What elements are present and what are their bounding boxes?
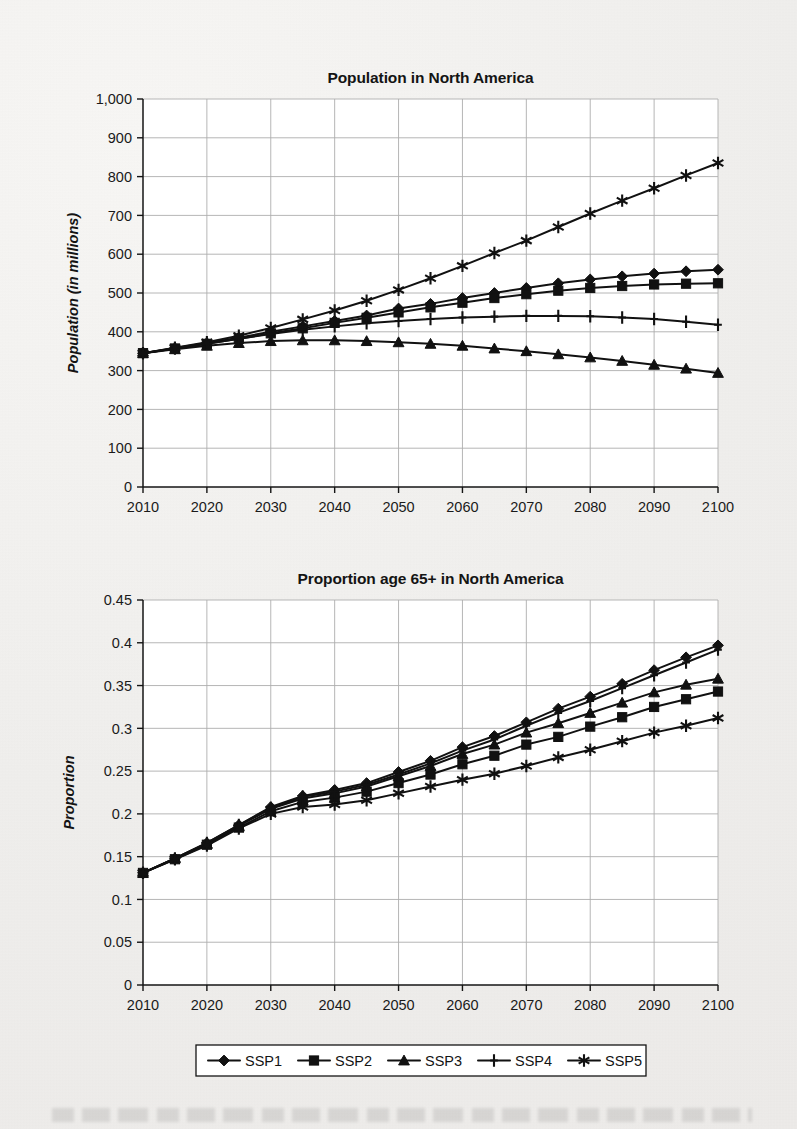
- x-tick-label: 2060: [446, 997, 478, 1013]
- legend-label: SSP3: [425, 1053, 462, 1069]
- marker-square: [681, 695, 690, 704]
- marker-square: [650, 702, 659, 711]
- y-tick-label: 300: [108, 363, 132, 379]
- y-tick-label: 0.45: [104, 592, 132, 608]
- marker-square: [490, 293, 499, 302]
- y-tick-label: 0.15: [104, 849, 132, 865]
- x-tick-label: 2060: [446, 499, 478, 515]
- x-tick-label: 2070: [510, 997, 542, 1013]
- x-tick-label: 2080: [574, 499, 606, 515]
- y-tick-label: 0.1: [112, 892, 132, 908]
- y-tick-label: 700: [108, 208, 132, 224]
- x-tick-label: 2030: [255, 499, 287, 515]
- marker-square: [554, 732, 563, 741]
- population-chart: Population in North America0100200300400…: [65, 69, 734, 515]
- marker-square: [618, 281, 627, 290]
- marker-square: [713, 279, 722, 288]
- y-tick-label: 800: [108, 169, 132, 185]
- marker-square: [426, 770, 435, 779]
- y-tick-label: 1,000: [96, 91, 132, 107]
- x-tick-label: 2030: [255, 997, 287, 1013]
- marker-square: [586, 722, 595, 731]
- marker-square: [458, 760, 467, 769]
- legend-label: SSP2: [335, 1053, 372, 1069]
- y-tick-label: 400: [108, 324, 132, 340]
- marker-square: [586, 283, 595, 292]
- y-tick-label: 0: [124, 977, 132, 993]
- y-tick-label: 0.4: [112, 635, 132, 651]
- marker-square: [713, 687, 722, 696]
- legend-label: SSP5: [605, 1053, 642, 1069]
- y-tick-label: 0.3: [112, 721, 132, 737]
- x-tick-label: 2100: [702, 997, 734, 1013]
- marker-square: [426, 303, 435, 312]
- y-axis-label: Proportion: [61, 755, 77, 829]
- x-tick-label: 2100: [702, 499, 734, 515]
- y-axis-label: Population (in millions): [65, 213, 81, 373]
- chart-title: Proportion age 65+ in North America: [298, 570, 564, 587]
- marker-square: [554, 286, 563, 295]
- figure-svg: Population in North America0100200300400…: [0, 0, 797, 1129]
- y-tick-label: 0.35: [104, 678, 132, 694]
- cut-off-caption: [52, 1108, 752, 1122]
- proportion-65-plus-chart: Proportion age 65+ in North America00.05…: [61, 570, 734, 1013]
- marker-square: [522, 740, 531, 749]
- scenario-legend: SSP1SSP2SSP3SSP4SSP5: [196, 1045, 646, 1076]
- marker-square: [618, 713, 627, 722]
- y-tick-label: 0.25: [104, 763, 132, 779]
- figure-container: Population in North America0100200300400…: [0, 0, 797, 1129]
- marker-square: [681, 279, 690, 288]
- legend-label: SSP4: [515, 1053, 552, 1069]
- x-tick-label: 2020: [191, 499, 223, 515]
- y-tick-label: 200: [108, 402, 132, 418]
- y-tick-label: 600: [108, 246, 132, 262]
- x-tick-label: 2070: [510, 499, 542, 515]
- y-tick-label: 500: [108, 285, 132, 301]
- y-tick-label: 900: [108, 130, 132, 146]
- x-tick-label: 2020: [191, 997, 223, 1013]
- chart-title: Population in North America: [328, 69, 534, 86]
- x-tick-label: 2090: [638, 997, 670, 1013]
- x-tick-label: 2050: [382, 499, 414, 515]
- marker-square: [650, 280, 659, 289]
- legend-label: SSP1: [245, 1053, 282, 1069]
- marker-square: [309, 1056, 318, 1065]
- x-tick-label: 2040: [319, 499, 351, 515]
- x-tick-label: 2050: [382, 997, 414, 1013]
- x-tick-label: 2080: [574, 997, 606, 1013]
- marker-square: [490, 751, 499, 760]
- x-tick-label: 2040: [319, 997, 351, 1013]
- x-tick-label: 2010: [127, 499, 159, 515]
- y-tick-label: 0.2: [112, 806, 132, 822]
- marker-square: [522, 290, 531, 299]
- x-tick-label: 2090: [638, 499, 670, 515]
- scanned-page: Population in North America0100200300400…: [0, 0, 797, 1129]
- x-tick-label: 2010: [127, 997, 159, 1013]
- marker-square: [458, 298, 467, 307]
- y-tick-label: 0: [124, 479, 132, 495]
- y-tick-label: 0.05: [104, 934, 132, 950]
- y-tick-label: 100: [108, 440, 132, 456]
